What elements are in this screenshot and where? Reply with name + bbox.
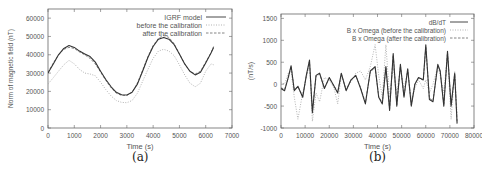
y-tick-label: 10000 xyxy=(26,106,44,113)
y-tick-label: 50000 xyxy=(26,33,44,40)
y-tick-label: 0 xyxy=(40,125,44,132)
legend-label: B x Omega (before the calibration) xyxy=(347,27,446,35)
x-tick-label: 2000 xyxy=(93,132,108,139)
chart-b-caption: (b) xyxy=(369,150,386,164)
series-line-after-the-calibration xyxy=(48,36,214,96)
series-line-db-dt xyxy=(281,45,457,124)
x-tick-label: 70000 xyxy=(441,132,459,139)
x-tick-label: 7000 xyxy=(225,132,240,139)
y-tick-label: 0 xyxy=(273,81,277,88)
series-line-b-x-omega-after-the-calibration- xyxy=(281,47,457,122)
x-tick-label: 1000 xyxy=(67,132,82,139)
y-tick-label: 1500 xyxy=(263,15,278,22)
chart-a-caption: (a) xyxy=(132,150,149,164)
chart-a-plot: 0100020003000400050006000700001000020000… xyxy=(0,0,241,171)
chart-panel-b: 0100002000030000400005000060000700008000… xyxy=(241,0,482,171)
legend-label: before the calibration xyxy=(137,22,202,29)
y-tick-label: 500 xyxy=(266,59,277,66)
x-tick-label: 6000 xyxy=(198,132,213,139)
x-tick-label: 3000 xyxy=(120,132,135,139)
y-tick-label: -1000 xyxy=(260,125,277,132)
x-tick-label: 10000 xyxy=(296,132,314,139)
chart-panel-a: 0100020003000400050006000700001000020000… xyxy=(0,0,241,171)
y-tick-label: -500 xyxy=(264,103,277,110)
y-axis-label: Norm of magnetic field (nT) xyxy=(7,29,15,108)
x-tick-label: 0 xyxy=(46,132,50,139)
legend-label: after the calibration xyxy=(142,30,202,37)
legend-label: dB/dT xyxy=(429,19,446,26)
x-tick-label: 40000 xyxy=(368,132,386,139)
y-axis-label: (nT/s) xyxy=(247,62,255,80)
x-tick-label: 30000 xyxy=(344,132,362,139)
y-tick-label: 60000 xyxy=(26,15,44,22)
legend-label: B x Omega (after the calibration) xyxy=(352,35,446,43)
chart-b-plot: 0100002000030000400005000060000700008000… xyxy=(241,0,482,171)
legend-label: IGRF model xyxy=(164,14,202,21)
x-tick-label: 5000 xyxy=(172,132,187,139)
y-tick-label: 1000 xyxy=(263,37,278,44)
x-tick-label: 60000 xyxy=(417,132,435,139)
x-tick-label: 4000 xyxy=(146,132,161,139)
x-tick-label: 50000 xyxy=(393,132,411,139)
x-tick-label: 0 xyxy=(279,132,283,139)
series-line-igrf-model xyxy=(48,37,214,95)
y-tick-label: 20000 xyxy=(26,88,44,95)
x-tick-label: 80000 xyxy=(465,132,482,139)
y-tick-label: 30000 xyxy=(26,70,44,77)
y-tick-label: 40000 xyxy=(26,51,44,58)
x-tick-label: 20000 xyxy=(320,132,338,139)
series-line-before-the-calibration xyxy=(48,49,214,102)
